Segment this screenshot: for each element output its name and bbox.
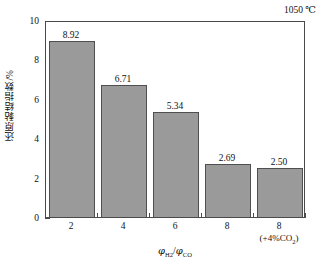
x-tick-mark [97,213,98,218]
bar-value-label: 5.34 [155,101,195,111]
x-axis-title-sub-co: CO [183,251,192,258]
x-tick-label: 2 [41,221,101,232]
x-tick-label: 6 [145,221,205,232]
bars-layer [46,22,304,217]
bar-chart-figure: 1050 ℃ 还原黏结指数/% 0246810 8.926.715.342.69… [0,0,324,270]
bar [257,168,303,217]
x-axis-title-phi2: φ [176,245,183,256]
bar-value-label: 2.50 [259,157,299,167]
temperature-annotation: 1050 ℃ [284,5,316,16]
y-tick-label: 2 [9,174,39,184]
bar [101,85,147,217]
x-tick-mark [305,213,306,218]
bar [153,112,199,217]
y-tick-label: 8 [9,55,39,65]
x-tick-mark [201,213,202,218]
plot-area [45,21,305,218]
bar [49,41,95,217]
bar-value-label: 6.71 [103,74,143,84]
y-tick-mark [45,218,50,219]
y-tick-label: 4 [9,134,39,144]
y-tick-label: 10 [9,16,39,26]
x-tick-mark [253,213,254,218]
y-axis-title: 还原黏结指数/% [4,70,20,141]
y-tick-label: 0 [9,213,39,223]
x-tick-mark [149,213,150,218]
y-tick-label: 6 [9,95,39,105]
x-tick-mark [45,213,46,218]
bar-value-label: 8.92 [51,30,91,40]
bar-value-label: 2.69 [207,153,247,163]
x-axis-title: φH2/φCO [85,245,265,261]
x-tick-label: 8 [197,221,257,232]
bar [205,164,251,217]
x-tick-label: 4 [93,221,153,232]
x-tick-label: 8 [249,221,309,232]
x-axis-title-sub-h: H2 [165,251,173,258]
